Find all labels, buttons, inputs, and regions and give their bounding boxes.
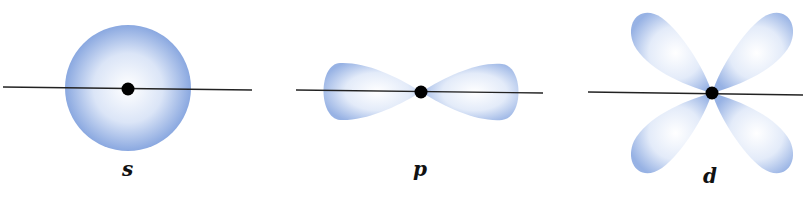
- d-lobe-upper-right: [712, 13, 793, 93]
- s-label: s: [121, 157, 133, 181]
- d-label: d: [703, 164, 717, 188]
- d-nucleus: [706, 87, 719, 100]
- s-nucleus: [122, 83, 135, 96]
- d-lobe-upper-left: [631, 13, 712, 93]
- p-nucleus: [415, 86, 428, 99]
- orbital-diagram: s p d: [0, 0, 803, 202]
- d-lobe-lower-right: [712, 93, 793, 173]
- p-label: p: [413, 157, 427, 181]
- d-lobe-lower-left: [631, 93, 712, 173]
- p-orbital: p: [296, 63, 543, 181]
- d-axis-line: [588, 92, 803, 95]
- s-orbital: s: [3, 25, 252, 181]
- d-orbital: d: [588, 13, 803, 188]
